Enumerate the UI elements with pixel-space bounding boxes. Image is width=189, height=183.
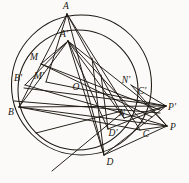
point-label-Cp: C' [138, 87, 146, 97]
point-label-D: D [107, 158, 114, 168]
point-label-Np: N' [122, 76, 130, 86]
point-label-Dp: D' [109, 129, 118, 139]
point-label-A: A [63, 2, 69, 12]
point-label-O: O [73, 83, 80, 93]
point-label-Bp: B' [14, 74, 22, 84]
segment-Ap-D [68, 41, 104, 155]
segment-Ap-Bp [25, 41, 68, 85]
segment-B-Pp [19, 106, 166, 107]
point-label-Pp: P' [168, 103, 176, 113]
point-label-P: P [170, 123, 176, 133]
point-label-C: C [143, 130, 149, 140]
point-label-N: N [119, 109, 125, 119]
segment-Ap-M [41, 41, 68, 64]
figure-canvas [0, 0, 189, 183]
point-label-M: M [30, 53, 38, 63]
point-label-Mp: M' [34, 72, 44, 82]
point-label-Ap: A' [60, 30, 68, 40]
geometry-figure: AA'MM'B'BON'C'ND'CDP'P [0, 0, 189, 183]
point-label-B: B [8, 108, 14, 118]
